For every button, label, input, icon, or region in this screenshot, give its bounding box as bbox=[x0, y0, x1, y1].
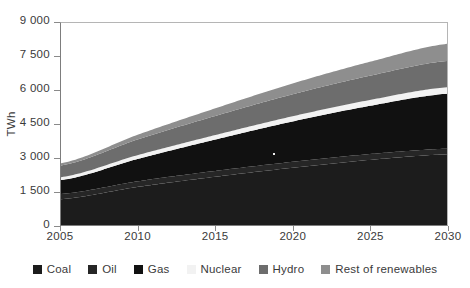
legend-label: Hydro bbox=[273, 263, 305, 275]
legend-label: Oil bbox=[102, 263, 117, 275]
y-axis-tick-label: 9 000 bbox=[0, 14, 50, 26]
y-axis-tick-label: 1 500 bbox=[0, 184, 50, 196]
x-axis-tick-mark bbox=[138, 226, 139, 231]
legend-swatch-icon bbox=[259, 265, 268, 274]
y-axis-tick-label: 3 000 bbox=[0, 150, 50, 162]
x-axis-tick-mark bbox=[215, 226, 216, 231]
y-axis-tick-label: 4 500 bbox=[0, 116, 50, 128]
legend-item-coal[interactable]: Coal bbox=[33, 263, 71, 275]
x-axis-tick-mark bbox=[293, 226, 294, 231]
x-axis-tick-label: 2010 bbox=[108, 230, 168, 242]
legend-label: Nuclear bbox=[201, 263, 242, 275]
legend-item-oil[interactable]: Oil bbox=[88, 263, 117, 275]
render-artifact-dot bbox=[273, 153, 275, 155]
legend-swatch-icon bbox=[134, 265, 143, 274]
legend-item-hydro[interactable]: Hydro bbox=[259, 263, 305, 275]
x-axis-tick-mark bbox=[370, 226, 371, 231]
y-axis-tick-label: 7 500 bbox=[0, 48, 50, 60]
y-axis-tick-label: 6 000 bbox=[0, 82, 50, 94]
legend-swatch-icon bbox=[88, 265, 97, 274]
chart-title-cropped bbox=[60, 0, 390, 1]
legend-label: Rest of renewables bbox=[335, 263, 437, 275]
legend-swatch-icon bbox=[321, 265, 330, 274]
legend-swatch-icon bbox=[187, 265, 196, 274]
legend-swatch-icon bbox=[33, 265, 42, 274]
plot-area bbox=[60, 22, 448, 226]
x-axis-tick-label: 2005 bbox=[30, 230, 90, 242]
x-axis-tick-mark bbox=[60, 226, 61, 231]
x-axis-tick-mark bbox=[448, 226, 449, 231]
legend-label: Coal bbox=[47, 263, 71, 275]
chart-legend: CoalOilGasNuclearHydroRest of renewables bbox=[0, 258, 470, 280]
stacked-area-series bbox=[61, 23, 447, 225]
x-axis-tick-label: 2020 bbox=[263, 230, 323, 242]
y-axis-tick-label: 0 bbox=[0, 218, 50, 230]
legend-item-nuclear[interactable]: Nuclear bbox=[187, 263, 242, 275]
chart-figure: TWh 01 5003 0004 5006 0007 5009 000 2005… bbox=[0, 0, 470, 288]
x-axis-tick-label: 2015 bbox=[185, 230, 245, 242]
x-axis-tick-label: 2030 bbox=[418, 230, 470, 242]
x-axis-tick-label: 2025 bbox=[340, 230, 400, 242]
legend-item-rest-of-renewables[interactable]: Rest of renewables bbox=[321, 263, 437, 275]
legend-item-gas[interactable]: Gas bbox=[134, 263, 170, 275]
legend-label: Gas bbox=[148, 263, 170, 275]
